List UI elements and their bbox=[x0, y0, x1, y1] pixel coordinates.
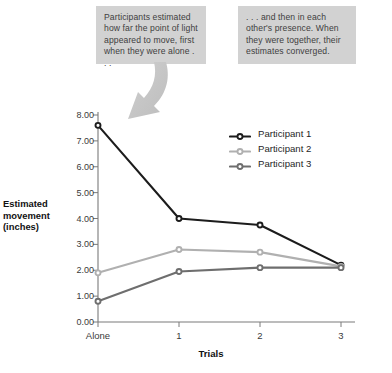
y-tick-label: 1.00 bbox=[58, 291, 94, 301]
y-tick-label: 2.00 bbox=[58, 265, 94, 275]
data-point-marker bbox=[339, 265, 344, 270]
legend-item-2[interactable]: Participant 2 bbox=[229, 141, 311, 156]
series-line-3 bbox=[98, 268, 341, 302]
x-axis-ticks bbox=[98, 322, 341, 327]
x-tick-label: Alone bbox=[86, 330, 110, 341]
y-axis-tick-labels: 0.001.002.003.004.005.006.007.008.00 bbox=[54, 0, 94, 373]
y-tick-label: 0.00 bbox=[58, 317, 94, 327]
data-point-marker bbox=[96, 123, 101, 128]
data-point-marker bbox=[258, 250, 263, 255]
y-tick-label: 3.00 bbox=[58, 239, 94, 249]
legend-label: Participant 3 bbox=[258, 158, 311, 169]
data-point-marker bbox=[96, 270, 101, 275]
legend-label: Participant 2 bbox=[258, 143, 311, 154]
legend-item-1[interactable]: Participant 1 bbox=[229, 126, 311, 141]
y-tick-label: 7.00 bbox=[58, 136, 94, 146]
x-tick-label: 3 bbox=[338, 330, 343, 341]
data-point-marker bbox=[177, 269, 182, 274]
y-tick-label: 6.00 bbox=[58, 162, 94, 172]
x-axis-title: Trials bbox=[0, 348, 392, 359]
data-point-marker bbox=[177, 216, 182, 221]
y-axis-title: Estimated movement (inches) bbox=[3, 198, 61, 233]
y-tick-label: 5.00 bbox=[58, 188, 94, 198]
legend-marker-icon bbox=[229, 143, 251, 154]
data-point-marker bbox=[177, 247, 182, 252]
legend-marker-icon bbox=[229, 128, 251, 139]
legend-item-3[interactable]: Participant 3 bbox=[229, 156, 311, 171]
chart-legend: Participant 1Participant 2Participant 3 bbox=[229, 126, 311, 171]
legend-label: Participant 1 bbox=[258, 128, 311, 139]
figure-container: Participants estimated how far the point… bbox=[0, 0, 392, 373]
data-point-marker bbox=[258, 222, 263, 227]
data-point-marker bbox=[258, 265, 263, 270]
x-tick-label: 1 bbox=[176, 330, 181, 341]
y-tick-label: 8.00 bbox=[58, 110, 94, 120]
data-point-marker bbox=[96, 299, 101, 304]
x-tick-label: 2 bbox=[257, 330, 262, 341]
legend-marker-icon bbox=[229, 158, 251, 169]
y-tick-label: 4.00 bbox=[58, 214, 94, 224]
